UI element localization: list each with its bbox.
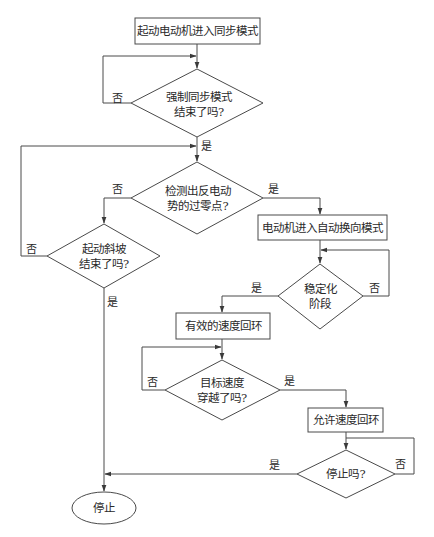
node-stop: 停止 (72, 492, 136, 524)
label-target-yes: 是 (284, 375, 295, 388)
node-bemf-line1: 检测出反电动 (165, 184, 231, 198)
node-stabilization-line1: 稳定化 (304, 282, 338, 296)
edge-target-yes (280, 390, 346, 407)
node-speed-loop-active: 有效的速度回环 (176, 313, 270, 339)
node-stop-check: 停止吗? (297, 450, 395, 498)
node-stabilization-line2: 阶段 (309, 297, 332, 311)
node-stop-check-text: 停止吗? (326, 467, 365, 481)
node-start-sync: 起动电动机进入同步模式 (135, 18, 260, 44)
label-ramp-no: 否 (26, 243, 37, 256)
node-forced-sync-line2: 结束了吗? (174, 105, 224, 119)
node-auto-commutation-text: 电动机进入自动换向模式 (262, 221, 384, 235)
node-ramp-done: 起动斜坡 结束了吗? (47, 224, 160, 288)
edge-bemf-no (104, 198, 131, 223)
node-bemf-zero-cross: 检测出反电动 势的过零点? (131, 162, 263, 234)
label-ramp-yes: 是 (107, 296, 118, 309)
label-stabilization-yes: 是 (251, 282, 262, 295)
label-stop-no: 否 (395, 458, 406, 471)
node-ramp-line1: 起动斜坡 (82, 242, 127, 256)
node-target-line1: 目标速度 (200, 376, 245, 390)
edge-stabilization-yes (222, 296, 278, 312)
label-stabilization-no: 否 (369, 282, 380, 295)
label-forced-sync-no: 否 (112, 92, 123, 105)
node-start-sync-text: 起动电动机进入同步模式 (137, 24, 259, 38)
edge-bemf-yes (263, 198, 320, 214)
node-stop-text: 停止 (93, 501, 115, 515)
node-forced-sync-line1: 强制同步模式 (166, 90, 233, 104)
label-bemf-no: 否 (112, 183, 123, 196)
node-auto-commutation: 电动机进入自动换向模式 (258, 215, 387, 240)
node-target-speed-crossed: 目标速度 穿越了吗? (165, 360, 280, 420)
node-target-line2: 穿越了吗? (197, 391, 247, 405)
node-speed-loop-active-text: 有效的速度回环 (185, 319, 262, 333)
node-ramp-line2: 结束了吗? (79, 257, 129, 271)
node-enable-speed-loop-text: 允许速度回环 (313, 413, 379, 427)
label-forced-sync-yes: 是 (201, 140, 212, 153)
node-bemf-line2: 势的过零点? (167, 199, 228, 213)
label-stop-yes: 是 (269, 459, 280, 472)
node-forced-sync-done: 强制同步模式 结束了吗? (131, 69, 263, 137)
node-stabilization: 稳定化 阶段 (278, 264, 363, 329)
label-bemf-yes: 是 (268, 183, 279, 196)
flowchart: 起动电动机进入同步模式 强制同步模式 结束了吗? 检测出反电动 势的过零点? 起… (0, 0, 434, 537)
node-enable-speed-loop: 允许速度回环 (308, 408, 383, 432)
label-target-no: 否 (147, 376, 158, 389)
